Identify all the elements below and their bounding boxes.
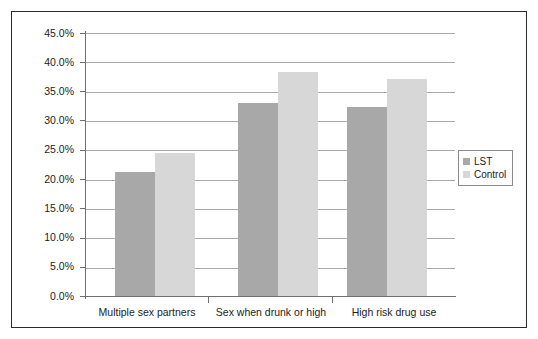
chart-legend: LST Control <box>458 150 513 186</box>
plot-area <box>85 33 455 297</box>
x-axis-category-label: Multiple sex partners <box>85 306 209 318</box>
x-axis-tick <box>208 297 209 303</box>
y-axis-label: 10.0% <box>18 232 74 242</box>
chart-container: 45.0% 40.0% 35.0% 30.0% 25.0% 20.0% 15.0… <box>0 0 538 339</box>
x-axis-category-label: Sex when drunk or high <box>209 306 333 318</box>
y-axis-labels: 45.0% 40.0% 35.0% 30.0% 25.0% 20.0% 15.0… <box>18 0 74 339</box>
gridline <box>85 62 455 63</box>
legend-label: Control <box>474 169 506 181</box>
bar-lst-high-risk-drug-use <box>347 107 387 297</box>
y-axis-label: 30.0% <box>18 115 74 125</box>
legend-item-control: Control <box>463 168 508 181</box>
legend-item-lst: LST <box>463 155 508 168</box>
y-axis-label: 20.0% <box>18 174 74 184</box>
legend-swatch-icon <box>463 158 470 165</box>
y-axis-label: 25.0% <box>18 144 74 154</box>
bar-control-multiple-sex-partners <box>155 153 195 297</box>
bar-lst-multiple-sex-partners <box>115 172 155 297</box>
y-axis-line <box>85 31 86 299</box>
y-axis-label: 35.0% <box>18 86 74 96</box>
y-axis-label: 0.0% <box>18 291 74 301</box>
y-axis-label: 40.0% <box>18 57 74 67</box>
bar-control-sex-when-drunk-or-high <box>278 72 318 297</box>
x-axis-tick <box>332 297 333 303</box>
legend-swatch-icon <box>463 171 470 178</box>
y-axis-label: 45.0% <box>18 28 74 38</box>
y-axis-label: 5.0% <box>18 261 74 271</box>
legend-label: LST <box>474 156 492 168</box>
bar-lst-sex-when-drunk-or-high <box>238 103 278 297</box>
gridline <box>85 33 455 34</box>
x-axis-line <box>84 296 456 297</box>
y-axis-label: 15.0% <box>18 203 74 213</box>
bar-control-high-risk-drug-use <box>387 79 427 297</box>
x-axis-category-label: High risk drug use <box>333 306 455 318</box>
